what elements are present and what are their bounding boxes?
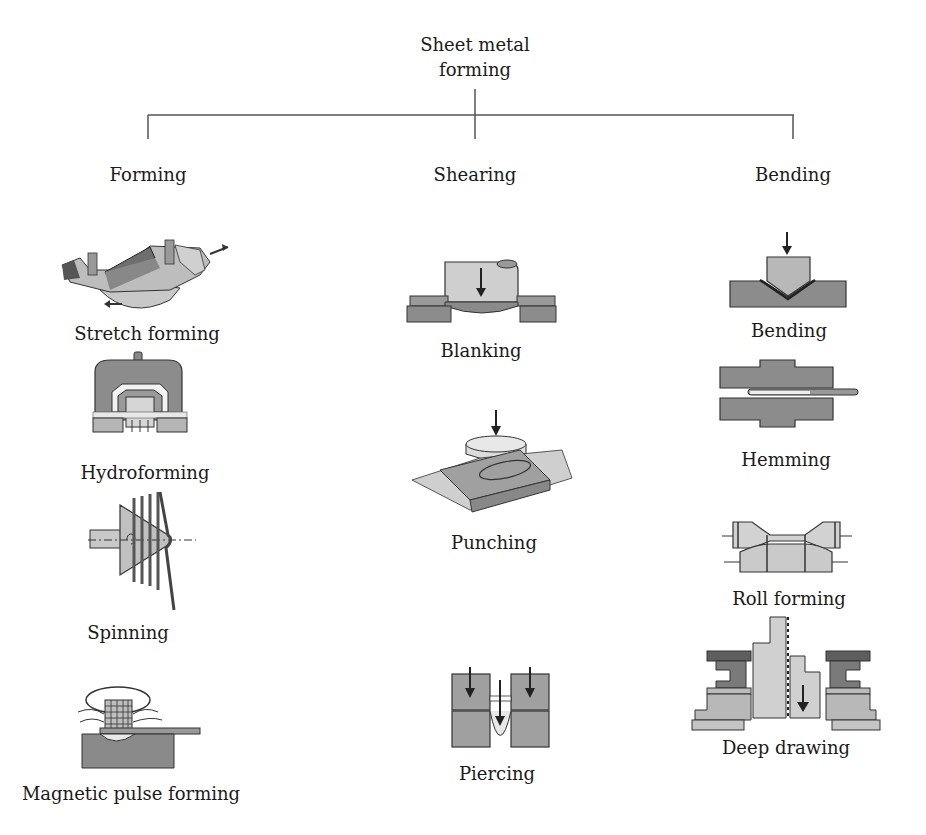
label-deep-drawing: Deep drawing	[722, 737, 850, 759]
deep-drawing-icon	[0, 0, 926, 835]
